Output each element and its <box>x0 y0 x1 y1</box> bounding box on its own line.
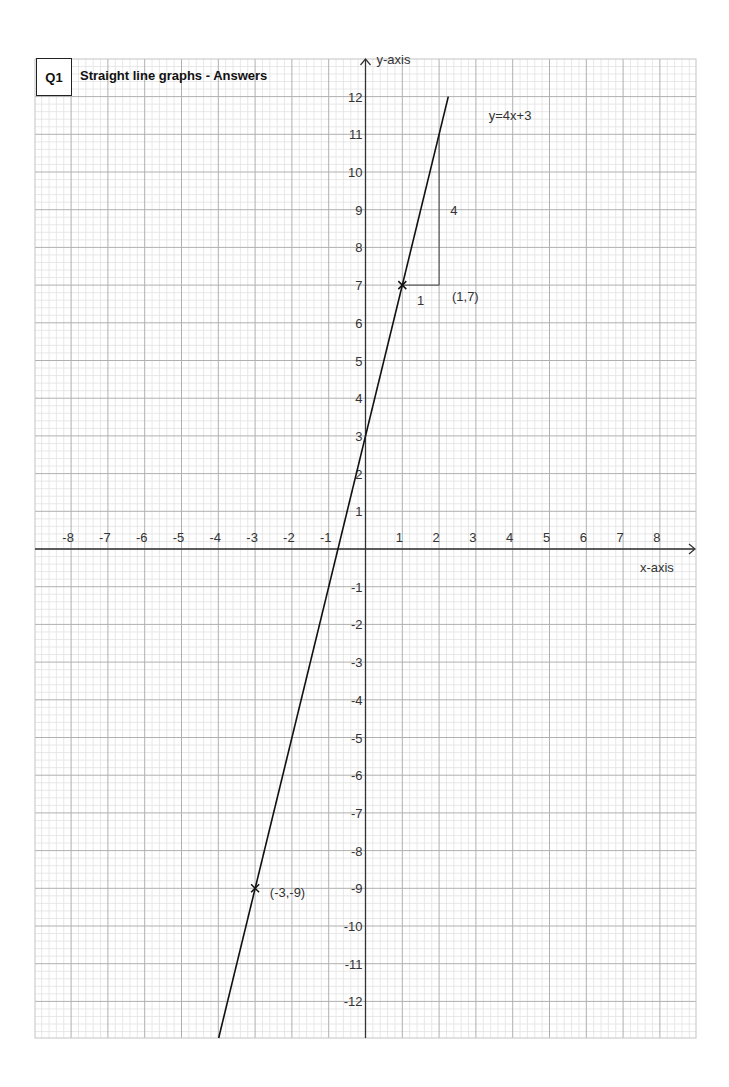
x-tick-label: 1 <box>396 530 403 545</box>
y-tick-label: -12 <box>344 994 363 1009</box>
axes: y-axisx-axis <box>35 52 695 1038</box>
y-tick-label: -11 <box>345 957 363 972</box>
x-axis-label: x-axis <box>640 560 674 575</box>
x-tick-label: -2 <box>283 530 295 545</box>
x-tick-label: 4 <box>506 530 513 545</box>
y-tick-label: 6 <box>355 316 362 331</box>
x-tick-label: 6 <box>580 530 587 545</box>
graph-paper-chart: y-axisx-axis -8-7-6-5-4-3-2-112345678121… <box>0 0 729 1087</box>
annotation-text: 1 <box>417 293 424 308</box>
x-tick-label: -5 <box>173 530 185 545</box>
x-tick-label: -3 <box>246 530 258 545</box>
y-tick-label: -7 <box>351 806 363 821</box>
y-tick-label: 5 <box>355 354 362 369</box>
x-tick-label: 8 <box>653 530 660 545</box>
line-series <box>219 97 449 1038</box>
y-tick-label: -3 <box>351 655 363 670</box>
y-tick-label: -10 <box>344 919 363 934</box>
y-tick-label: -5 <box>351 731 363 746</box>
y-tick-label: 3 <box>355 429 362 444</box>
annotation-text: y=4x+3 <box>489 108 532 123</box>
y-tick-label: 12 <box>348 90 362 105</box>
x-tick-label: 3 <box>469 530 476 545</box>
y-tick-label: -8 <box>351 844 363 859</box>
annotation-text: (1,7) <box>452 289 479 304</box>
y-tick-label: -6 <box>351 768 363 783</box>
question-number-box: Q1 <box>36 58 72 96</box>
x-tick-label: -8 <box>62 530 74 545</box>
x-tick-label: 7 <box>616 530 623 545</box>
x-tick-label: -1 <box>320 530 332 545</box>
y-tick-label: 7 <box>355 278 362 293</box>
y-tick-label: -4 <box>351 693 363 708</box>
annotations: y=4x+3(1,7)(-3,-9)14 <box>270 108 532 900</box>
page-title: Straight line graphs - Answers <box>80 68 267 83</box>
y-axis-label: y-axis <box>377 52 411 67</box>
y-tick-label: 1 <box>355 504 362 519</box>
annotation-text: 4 <box>450 203 457 218</box>
x-tick-label: 2 <box>432 530 439 545</box>
x-tick-label: 5 <box>543 530 550 545</box>
y-tick-label: -2 <box>351 617 363 632</box>
y-tick-label: -1 <box>351 580 363 595</box>
x-tick-label: -7 <box>99 530 111 545</box>
y-tick-label: 11 <box>349 127 363 142</box>
y-tick-label: 10 <box>348 165 362 180</box>
y-tick-label: 9 <box>355 203 362 218</box>
line-y-4x-plus-3 <box>219 97 449 1038</box>
y-tick-label: -9 <box>351 881 363 896</box>
x-tick-label: -6 <box>136 530 148 545</box>
y-tick-label: 4 <box>355 391 362 406</box>
annotation-text: (-3,-9) <box>270 885 305 900</box>
y-tick-label: 8 <box>355 240 362 255</box>
question-number: Q1 <box>45 70 62 85</box>
x-tick-label: -4 <box>210 530 222 545</box>
